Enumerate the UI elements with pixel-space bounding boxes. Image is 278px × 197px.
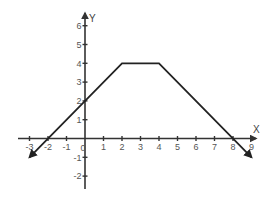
x-axis-label: X bbox=[253, 124, 260, 135]
axes bbox=[18, 13, 256, 189]
x-tick-label: 6 bbox=[193, 142, 198, 152]
x-tick-label: 4 bbox=[156, 142, 161, 152]
y-tick-label: 5 bbox=[76, 40, 81, 50]
y-tick-label: -2 bbox=[73, 171, 81, 181]
y-tick-label: -1 bbox=[73, 153, 81, 163]
tick-labels: XY-3-2-10123456789-2-1123456 bbox=[25, 13, 260, 181]
y-axis-label: Y bbox=[89, 13, 96, 24]
x-tick-label: 1 bbox=[101, 142, 106, 152]
y-tick-label: 6 bbox=[76, 21, 81, 31]
y-tick-label: 4 bbox=[76, 59, 81, 69]
x-tick-label: 2 bbox=[119, 142, 124, 152]
x-tick-label: 3 bbox=[138, 142, 143, 152]
x-tick-label: -2 bbox=[44, 142, 52, 152]
x-tick-label: 0 bbox=[80, 143, 85, 153]
coordinate-plane-chart: XY-3-2-10123456789-2-1123456 bbox=[0, 0, 278, 197]
x-tick-label: -3 bbox=[25, 142, 33, 152]
x-tick-label: 9 bbox=[249, 142, 254, 152]
x-tick-label: 5 bbox=[175, 142, 180, 152]
tick-marks bbox=[30, 26, 252, 176]
x-tick-label: 8 bbox=[230, 142, 235, 152]
y-tick-label: 3 bbox=[76, 77, 81, 87]
x-tick-label: -1 bbox=[62, 142, 70, 152]
y-tick-label: 1 bbox=[76, 115, 81, 125]
x-tick-label: 7 bbox=[212, 142, 217, 152]
